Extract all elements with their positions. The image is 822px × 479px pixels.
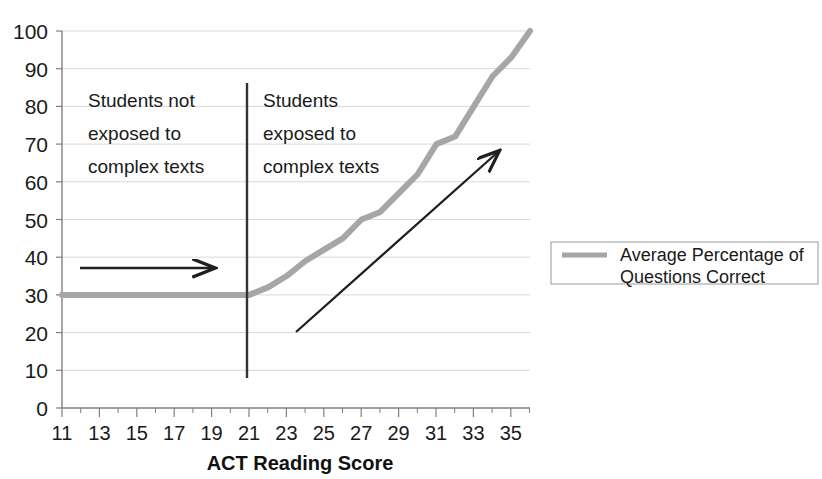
x-tick-label-31: 31 xyxy=(425,422,447,444)
x-axis-tick-labels: 11 13 15 17 19 21 23 25 27 29 31 33 35 xyxy=(52,422,522,444)
y-tick-label-0: 0 xyxy=(36,397,48,420)
diagonal-arrow-annotation xyxy=(296,152,498,332)
y-tick-label-30: 30 xyxy=(25,284,48,307)
y-tick-label-40: 40 xyxy=(25,246,48,269)
y-tick-label-80: 80 xyxy=(25,95,48,118)
y-tick-label-90: 90 xyxy=(25,58,48,81)
legend-label-line-1: Average Percentage of xyxy=(620,245,805,265)
left-region-label-line-1: Students not xyxy=(88,90,195,111)
x-tick-label-25: 25 xyxy=(313,422,335,444)
y-tick-label-60: 60 xyxy=(25,171,48,194)
x-tick-label-19: 19 xyxy=(200,422,222,444)
y-tick-label-70: 70 xyxy=(25,133,48,156)
left-region-label-line-2: exposed to xyxy=(88,123,181,144)
line-chart-figure: 100 90 80 70 60 50 40 30 20 10 0 xyxy=(0,0,822,479)
x-axis-title: ACT Reading Score xyxy=(207,452,394,474)
x-tick-label-15: 15 xyxy=(126,422,148,444)
x-tick-label-23: 23 xyxy=(275,422,297,444)
x-tick-label-21: 21 xyxy=(238,422,260,444)
gridlines xyxy=(62,31,530,370)
x-tick-label-33: 33 xyxy=(462,422,484,444)
legend: Average Percentage of Questions Correct xyxy=(551,242,818,287)
left-region-label-line-3: complex texts xyxy=(88,156,204,177)
y-tick-label-50: 50 xyxy=(25,209,48,232)
right-region-label: Students exposed to complex texts xyxy=(263,90,379,177)
legend-label-line-2: Questions Correct xyxy=(620,267,765,287)
right-region-label-line-2: exposed to xyxy=(263,123,356,144)
x-tick-marks xyxy=(62,408,530,417)
right-region-label-line-1: Students xyxy=(263,90,338,111)
y-tick-label-100: 100 xyxy=(13,20,48,43)
x-tick-label-11: 11 xyxy=(52,422,73,444)
left-region-label: Students not exposed to complex texts xyxy=(88,90,204,177)
chart-container: 100 90 80 70 60 50 40 30 20 10 0 xyxy=(0,0,822,479)
x-tick-label-13: 13 xyxy=(88,422,110,444)
x-tick-label-35: 35 xyxy=(500,422,522,444)
x-tick-label-29: 29 xyxy=(387,422,409,444)
right-region-label-line-3: complex texts xyxy=(263,156,379,177)
y-axis-tick-labels: 100 90 80 70 60 50 40 30 20 10 0 xyxy=(13,20,48,420)
y-tick-label-10: 10 xyxy=(25,359,48,382)
x-tick-label-27: 27 xyxy=(350,422,372,444)
y-tick-label-20: 20 xyxy=(25,322,48,345)
y-tick-marks xyxy=(56,31,62,408)
x-tick-label-17: 17 xyxy=(163,422,185,444)
